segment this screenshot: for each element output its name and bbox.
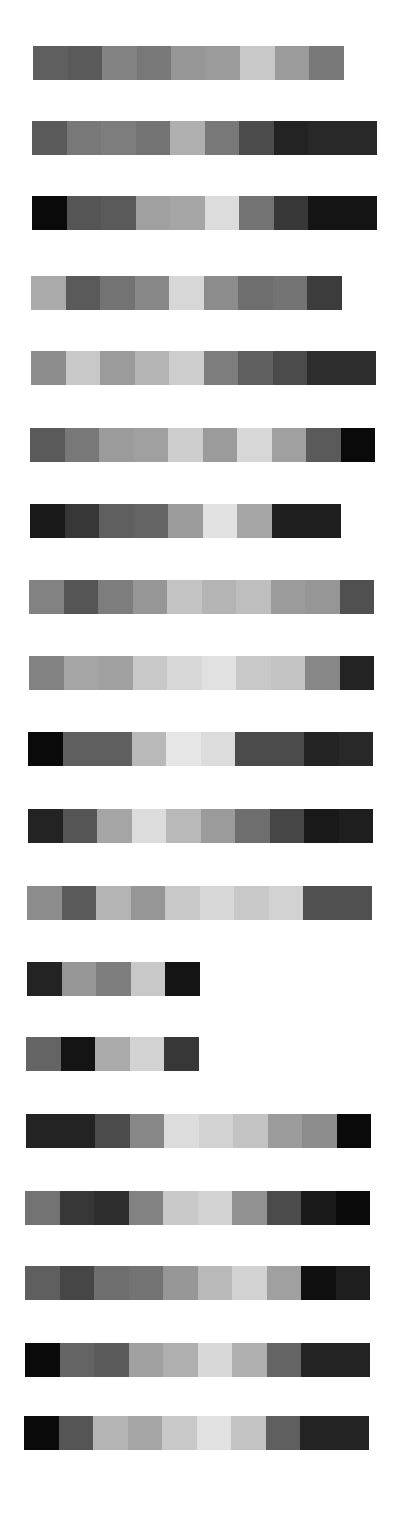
swatch-row [25,1191,370,1225]
swatch-row [32,121,377,155]
swatch-cell [303,886,338,920]
swatch-cell [302,1114,337,1148]
swatch-row [28,809,373,843]
swatch-cell [267,1343,302,1377]
swatch-cell [60,1266,95,1300]
swatch-cell [305,580,340,614]
swatch-cell [235,809,270,843]
swatch-cell [335,1416,370,1450]
swatch-row [26,1037,199,1071]
swatch-cell [268,1114,303,1148]
swatch-row [30,428,375,462]
swatch-cell [96,886,131,920]
swatch-cell [309,46,344,80]
swatch-cell [60,1343,95,1377]
swatch-cell [163,1343,198,1377]
swatch-cell [274,196,309,230]
swatch-cell [164,1114,199,1148]
swatch-cell [198,1191,233,1225]
swatch-cell [28,809,63,843]
swatch-cell [239,121,274,155]
swatch-cell [238,351,273,385]
swatch-cell [202,580,237,614]
swatch-cell [132,732,167,766]
swatch-cell [66,351,101,385]
swatch-cell [275,46,310,80]
swatch-cell [267,1266,302,1300]
swatch-cell [266,1416,301,1450]
swatch-row [32,196,377,230]
swatch-cell [27,962,62,996]
swatch-cell [162,1416,197,1450]
swatch-cell [272,504,307,538]
swatch-cell [26,1037,61,1071]
swatch-cell [274,121,309,155]
swatch-row [30,504,341,538]
swatch-cell [134,428,169,462]
swatch-cell [201,809,236,843]
swatch-cell [33,46,68,80]
swatch-cell [129,1191,164,1225]
swatch-cell [307,351,342,385]
swatch-cell [130,1114,165,1148]
swatch-cell [25,1266,60,1300]
swatch-cell [236,580,271,614]
swatch-cell [67,196,102,230]
swatch-cell [95,1114,130,1148]
swatch-cell [31,351,66,385]
swatch-cell [270,809,305,843]
swatch-cell [270,732,305,766]
swatch-cell [336,1343,371,1377]
swatch-cell [206,46,241,80]
swatch-cell [205,121,240,155]
swatch-cell [205,196,240,230]
swatch-cell [97,732,132,766]
swatch-cell [301,1343,336,1377]
swatch-cell [129,1266,164,1300]
swatch-row [28,732,373,766]
swatch-cell [97,809,132,843]
swatch-cell [236,656,271,690]
swatch-cell [300,1416,335,1450]
swatch-cell [136,121,171,155]
swatch-cell [99,428,134,462]
swatch-cell [167,580,202,614]
swatch-cell [340,580,375,614]
swatch-cell [234,886,269,920]
swatch-cell [128,1416,163,1450]
swatch-cell [135,351,170,385]
swatch-cell [199,1114,234,1148]
swatch-cell [25,1191,60,1225]
swatch-cell [163,1191,198,1225]
swatch-cell [232,1191,267,1225]
swatch-cell [64,580,99,614]
swatch-cell [24,1416,59,1450]
swatch-cell [98,656,133,690]
swatch-cell [135,276,170,310]
swatch-cell [168,428,203,462]
swatch-cell [101,121,136,155]
swatch-cell [273,351,308,385]
swatch-cell [169,276,204,310]
swatch-cell [163,1266,198,1300]
swatch-cell [235,732,270,766]
swatch-cell [26,1114,61,1148]
swatch-cell [203,428,238,462]
swatch-cell [301,1266,336,1300]
swatch-row [24,1416,369,1450]
swatch-cell [273,276,308,310]
swatch-cell [306,428,341,462]
swatch-cell [99,504,134,538]
swatch-cell [305,656,340,690]
swatch-cell [198,1266,233,1300]
swatch-cell [130,1037,165,1071]
swatch-cell [61,1114,96,1148]
swatch-cell [338,886,373,920]
swatch-cell [62,962,97,996]
swatch-cell [131,886,166,920]
swatch-cell [28,732,63,766]
swatch-cell [27,886,62,920]
swatch-cell [170,196,205,230]
swatch-cell [93,1416,128,1450]
swatch-cell [29,656,64,690]
